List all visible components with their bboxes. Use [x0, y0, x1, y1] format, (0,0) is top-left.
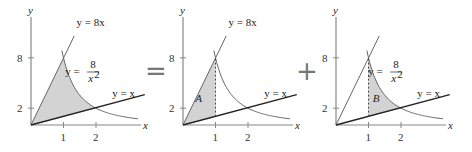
- area-decomposition-figure: 8212yxy = 8xy = xy = 8x28212yxy = 8xy = …: [0, 0, 472, 152]
- label-y-x: y = x: [112, 87, 135, 99]
- region-label-A: A: [194, 92, 202, 104]
- y-tick-label: 2: [17, 102, 23, 114]
- x-axis-label: x: [447, 119, 453, 131]
- region-label-B: B: [373, 92, 380, 104]
- x-axis-label: x: [142, 119, 148, 131]
- label-curve-prefix: y =: [368, 65, 382, 77]
- label-curve-denominator: x: [87, 72, 93, 84]
- shaded-region: [31, 58, 96, 125]
- y-tick-label: 8: [17, 52, 23, 64]
- x-tick-label: 1: [366, 131, 372, 143]
- y-tick-label: 8: [169, 52, 175, 64]
- label-curve-exponent: 2: [94, 68, 100, 80]
- label-y-8x: y = 8x: [229, 16, 258, 28]
- x-tick-label: 2: [398, 131, 404, 143]
- x-axis-label: x: [294, 119, 300, 131]
- label-y-x: y = x: [264, 87, 287, 99]
- graph-panel-total: 8212yxy = 8xy = xy = 8x2: [17, 4, 148, 143]
- plus-sign: +: [296, 56, 318, 86]
- graph-panel-B: 8212yxy = xy = 8x2B: [322, 4, 453, 143]
- x-tick-label: 1: [61, 131, 67, 143]
- y-tick-label: 2: [169, 102, 175, 114]
- x-tick-label: 2: [93, 131, 99, 143]
- x-tick-label: 2: [245, 131, 251, 143]
- label-curve-prefix: y =: [65, 65, 79, 77]
- label-y-x: y = x: [417, 87, 440, 99]
- y-tick-label: 2: [322, 102, 328, 114]
- label-curve-exponent: 2: [397, 68, 403, 80]
- graph-panel-A: 8212yxy = 8xy = xA: [169, 4, 300, 143]
- y-tick-label: 8: [322, 52, 328, 64]
- label-curve-denominator: x: [390, 72, 396, 84]
- label-y-8x: y = 8x: [77, 16, 106, 28]
- x-tick-label: 1: [213, 131, 219, 143]
- equals-sign: =: [145, 56, 167, 86]
- curve-8-over-x-squared: [214, 51, 290, 119]
- y-axis-label: y: [332, 4, 338, 16]
- y-axis-label: y: [179, 4, 185, 16]
- y-axis-label: y: [27, 4, 33, 16]
